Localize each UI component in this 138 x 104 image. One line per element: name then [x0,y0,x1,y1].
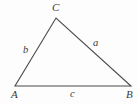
triangle-graphic [0,0,138,104]
vertex-label-c: C [52,2,59,13]
vertex-label-b: B [126,89,133,100]
side-label-b: b [23,45,28,56]
vertex-label-a: A [11,89,18,100]
triangle-outline [15,18,131,86]
side-label-c: c [70,89,75,100]
triangle-figure: C b a A c B [0,0,138,104]
side-label-a: a [93,38,98,49]
